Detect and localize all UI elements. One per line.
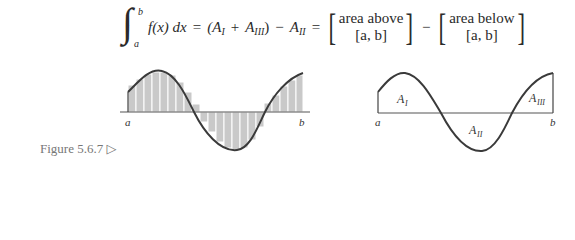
label-a-left: a [125, 116, 131, 128]
riemann-bars [128, 72, 303, 150]
label-b-left: b [299, 116, 305, 128]
svg-text:II: II [476, 130, 483, 139]
label-b-right: b [550, 116, 556, 128]
region-label-a2: A II [468, 123, 483, 139]
right-figure: a b A I A II A III [375, 73, 556, 151]
function-curve-right [378, 73, 553, 151]
svg-text:A: A [396, 92, 405, 106]
left-figure: a b [120, 71, 310, 151]
svg-text:I: I [404, 99, 408, 108]
svg-text:III: III [536, 98, 545, 107]
figure-caption: Figure 5.6.7 ▷ [40, 141, 116, 157]
region-label-a3: A III [528, 91, 545, 107]
svg-text:A: A [528, 91, 537, 105]
svg-text:A: A [468, 123, 477, 137]
region-label-a1: A I [396, 92, 408, 108]
label-a-right: a [375, 116, 381, 128]
